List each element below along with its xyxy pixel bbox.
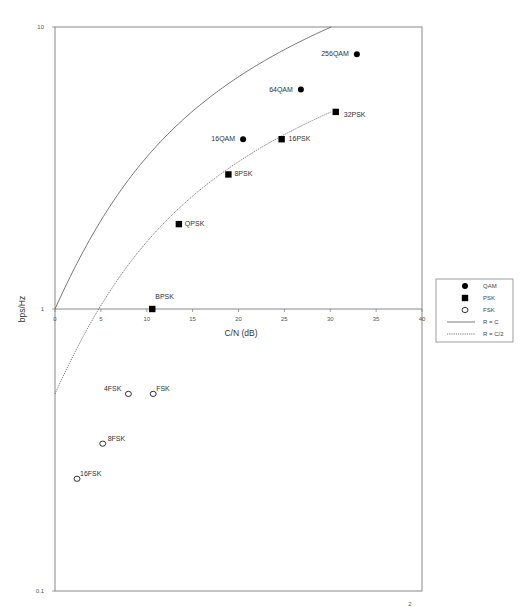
theory-curves <box>55 27 331 394</box>
data-points: 16QAM64QAM256QAMBPSKQPSK8PSK16PSK32PSKFS… <box>74 50 366 481</box>
y-tick-label: 0.1 <box>36 588 45 594</box>
point-label: 64QAM <box>269 86 293 94</box>
page-marker: 2 <box>408 601 412 607</box>
fsk-marker <box>150 391 156 396</box>
x-tick-label: 15 <box>189 316 196 322</box>
fsk-marker <box>74 476 80 481</box>
y-axis: 0.1110 <box>36 24 55 594</box>
x-tick-label: 5 <box>99 316 103 322</box>
fsk-marker <box>100 441 106 446</box>
curve-r-equals-c <box>55 27 331 309</box>
y-axis-title: bps/Hz <box>17 296 27 322</box>
qam-marker <box>240 136 246 142</box>
point-label: 32PSK <box>344 111 366 118</box>
legend-symbol-open-circle <box>462 307 468 312</box>
legend-label: PSK <box>483 295 495 301</box>
x-tick-label: 20 <box>235 316 242 322</box>
curve-r-equals-c-half <box>55 112 331 394</box>
point-label: 16FSK <box>80 470 102 477</box>
point-label: 8FSK <box>108 435 126 442</box>
point-label: 4FSK <box>104 385 122 392</box>
legend-symbol-filled-square <box>462 295 468 301</box>
legend-label: R = C/2 <box>483 331 504 337</box>
legend: QAMPSKFSKR = CR = C/2 <box>436 279 513 342</box>
x-tick-label: 35 <box>373 316 380 322</box>
point-label: 16QAM <box>211 135 235 143</box>
psk-marker <box>333 109 339 115</box>
point-label: BPSK <box>155 293 174 300</box>
x-axis-title: C/N (dB) <box>224 328 257 338</box>
point-label: 8PSK <box>234 170 252 177</box>
legend-label: QAM <box>483 283 497 289</box>
psk-marker <box>225 171 231 177</box>
x-tick-label: 0 <box>53 316 57 322</box>
x-tick-label: 30 <box>327 316 334 322</box>
psk-marker <box>278 136 284 142</box>
point-label: 256QAM <box>321 50 349 58</box>
legend-symbol-filled-circle <box>462 283 468 289</box>
x-tick-label: 40 <box>419 316 426 322</box>
psk-marker <box>176 221 182 227</box>
y-tick-label: 1 <box>41 306 45 312</box>
point-label: 16PSK <box>289 135 311 142</box>
x-axis: 0510152025303540 <box>53 309 426 322</box>
qam-marker <box>354 51 360 57</box>
chart-canvas: 0510152025303540 0.1110 16QAM64QAM256QAM… <box>0 0 523 607</box>
point-label: QPSK <box>185 220 205 228</box>
point-label: FSK <box>156 385 170 392</box>
legend-label: R = C <box>483 319 499 325</box>
y-tick-label: 10 <box>37 24 44 30</box>
x-tick-label: 25 <box>281 316 288 322</box>
psk-marker <box>149 306 155 312</box>
fsk-marker <box>125 391 131 396</box>
x-tick-label: 10 <box>143 316 150 322</box>
legend-label: FSK <box>483 307 495 313</box>
qam-marker <box>298 87 304 93</box>
